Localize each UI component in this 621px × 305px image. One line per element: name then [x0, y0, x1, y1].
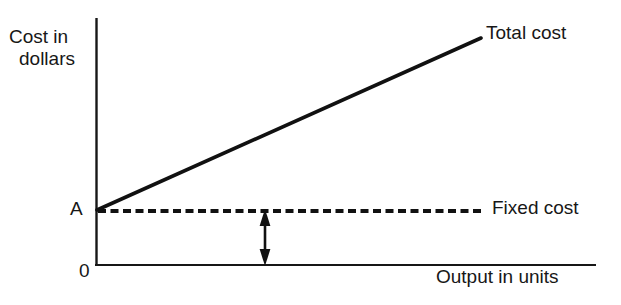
- y-axis-title-line-2: dollars: [9, 48, 75, 70]
- total-cost-label: Total cost: [486, 22, 566, 44]
- fixed-cost-arrow: [260, 209, 271, 266]
- cost-volume-chart: Cost indollars A 0 Total cost Fixed cost…: [0, 0, 621, 305]
- x-axis-title: Output in units: [436, 266, 559, 288]
- fixed-cost-label: Fixed cost: [492, 197, 579, 219]
- y-axis-title: Cost indollars: [9, 26, 75, 71]
- origin-label-zero: 0: [79, 260, 90, 282]
- chart-canvas: [0, 0, 621, 305]
- y-axis-title-line-1: Cost in: [9, 26, 68, 47]
- total-cost-line: [97, 38, 481, 210]
- y-intercept-label-a: A: [70, 198, 83, 220]
